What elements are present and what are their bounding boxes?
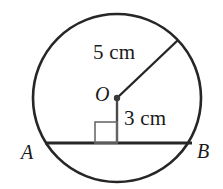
distance-length-label: 3 cm (124, 108, 166, 129)
point-a-label: A (21, 142, 33, 162)
centre-point-label: O (95, 84, 109, 104)
point-b-label: B (197, 141, 209, 161)
right-angle-marker-icon (95, 122, 117, 143)
center-point-dot-icon (114, 95, 120, 101)
radius-length-label: 5 cm (93, 42, 135, 63)
geometry-figure: 5 cm 3 cm O A B (0, 0, 223, 189)
geometry-canvas (0, 0, 223, 189)
